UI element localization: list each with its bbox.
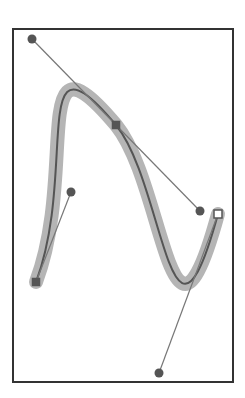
middle-in-handle[interactable] <box>28 35 117 126</box>
end-anchor[interactable] <box>214 210 222 218</box>
handle-line <box>116 125 200 211</box>
middle-out-handle[interactable] <box>116 125 205 216</box>
handle-point-icon[interactable] <box>28 35 37 44</box>
path-selection-highlight <box>36 89 218 283</box>
middle-anchor[interactable] <box>112 121 120 129</box>
handle-line <box>32 39 116 125</box>
handle-point-icon[interactable] <box>155 369 164 378</box>
start-anchor[interactable] <box>32 278 40 286</box>
handle-point-icon[interactable] <box>67 188 76 197</box>
bezier-canvas[interactable] <box>0 0 245 398</box>
handle-point-icon[interactable] <box>196 207 205 216</box>
